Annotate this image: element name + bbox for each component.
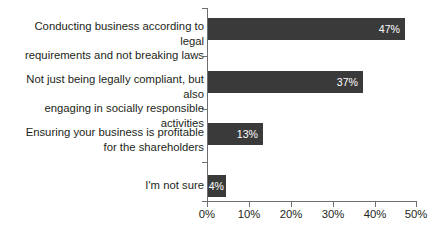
y-axis-tick	[202, 162, 207, 163]
y-axis-tick	[202, 109, 207, 110]
y-axis-tick	[202, 8, 207, 9]
bar-value-label-3: 4%	[209, 181, 224, 192]
x-axis-label-5: 50%	[396, 208, 432, 221]
bar-value-label-1: 37%	[337, 77, 358, 88]
y-axis-tick	[202, 56, 207, 57]
bar-value-label-0: 47%	[379, 24, 400, 35]
category-label-0: Conducting business according to legal r…	[14, 19, 204, 63]
x-axis-label-2: 20%	[271, 208, 311, 221]
category-label-2: Ensuring your business is profitable for…	[14, 125, 204, 154]
x-axis-tick	[291, 202, 292, 207]
plot-area: 47% 37% 13% 4% 0% 10% 20% 30% 40% 50%	[207, 0, 432, 202]
x-axis-label-4: 40%	[355, 208, 395, 221]
x-axis-tick	[207, 202, 208, 207]
category-label-3: I'm not sure	[14, 178, 204, 193]
horizontal-bar-chart: Conducting business according to legal r…	[0, 0, 432, 234]
x-axis-label-3: 30%	[313, 208, 353, 221]
x-axis-line	[207, 201, 417, 202]
x-axis-tick	[249, 202, 250, 207]
bar-1: 37%	[208, 71, 363, 93]
bar-2: 13%	[208, 123, 263, 145]
x-axis-label-0: 0%	[187, 208, 227, 221]
x-axis-tick	[375, 202, 376, 207]
bar-value-label-2: 13%	[237, 129, 258, 140]
category-label-1: Not just being legally compliant, but al…	[14, 72, 204, 130]
bar-0: 47%	[208, 18, 405, 40]
x-axis-tick	[416, 202, 417, 207]
x-axis-tick	[333, 202, 334, 207]
x-axis-label-1: 10%	[229, 208, 269, 221]
bar-3: 4%	[208, 175, 226, 197]
